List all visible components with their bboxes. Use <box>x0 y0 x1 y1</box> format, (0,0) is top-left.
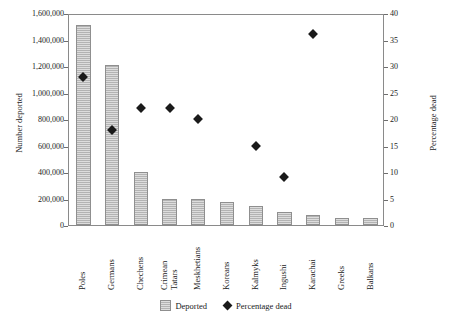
y-axis-right-tick-mark <box>384 173 388 174</box>
legend-label-deported: Deported <box>175 301 207 311</box>
points-layer <box>69 15 383 225</box>
legend-label-percentage-dead: Percentage dead <box>236 301 291 311</box>
y-axis-left-tick-label: 1,600,000 <box>2 10 64 18</box>
x-axis-tick-label: Chechens <box>136 257 146 290</box>
data-point-marker <box>78 72 88 82</box>
y-axis-left-tick-label: 800,000 <box>2 116 64 124</box>
legend-item-percentage-dead: Percentage dead <box>223 301 291 311</box>
y-axis-right-tick-mark <box>384 120 388 121</box>
diamond-marker-icon <box>223 301 233 311</box>
y-axis-right-tick-mark <box>384 41 388 42</box>
legend-item-deported: Deported <box>160 300 207 311</box>
x-axis-tick-label: Karachai <box>308 259 318 290</box>
y-axis-right-tick-label: 30 <box>390 63 430 71</box>
y-axis-right-tick-label: 0 <box>390 222 430 230</box>
y-axis-left-tick-label: 600,000 <box>2 143 64 151</box>
x-axis-tick-label: Koreans <box>222 262 232 290</box>
y-axis-left-tick-label: 1,400,000 <box>2 37 64 45</box>
y-axis-left-tick-label: 1,200,000 <box>2 63 64 71</box>
y-axis-right-tick-label: 40 <box>390 10 430 18</box>
data-point-marker <box>251 141 261 151</box>
chart-legend: Deported Percentage dead <box>0 300 452 311</box>
y-axis-right-tick-mark <box>384 147 388 148</box>
y-axis-left-tick-label: 400,000 <box>2 169 64 177</box>
plot-area <box>68 14 384 226</box>
y-axis-right-tick-label: 35 <box>390 37 430 45</box>
y-axis-right-tick-label: 15 <box>390 143 430 151</box>
x-axis-tick-label: Poles <box>78 272 88 290</box>
y-axis-right-tick-mark <box>384 67 388 68</box>
x-axis-tick-label: CrimeanTatars <box>160 261 179 290</box>
y-axis-right-tick-mark <box>384 94 388 95</box>
chart-container: Number deported Percentage dead 0200,000… <box>0 0 452 326</box>
x-axis-tick-label: Balkans <box>366 263 376 290</box>
x-axis-tick-label: Germans <box>107 259 117 290</box>
data-point-marker <box>308 29 318 39</box>
y-axis-left-tick-label: 0 <box>2 222 64 230</box>
y-axis-left-tick-mark <box>64 226 68 227</box>
data-point-marker <box>165 103 175 113</box>
y-axis-right-tick-mark <box>384 200 388 201</box>
y-axis-right-tick-label: 5 <box>390 196 430 204</box>
x-axis-tick-label: Ingushi <box>279 265 289 291</box>
x-axis-tick-label: Kalmyks <box>251 259 261 290</box>
y-axis-left-tick-label: 1,000,000 <box>2 90 64 98</box>
bar-swatch-icon <box>160 300 171 311</box>
y-axis-left-tick-label: 200,000 <box>2 196 64 204</box>
data-point-marker <box>136 103 146 113</box>
data-point-marker <box>193 114 203 124</box>
y-axis-right-tick-label: 20 <box>390 116 430 124</box>
y-axis-right-tick-mark <box>384 226 388 227</box>
data-point-marker <box>107 125 117 135</box>
x-axis-tick-label: Meskhetians <box>193 247 203 290</box>
data-point-marker <box>280 172 290 182</box>
y-axis-right-tick-mark <box>384 14 388 15</box>
x-axis-tick-label: Greeks <box>337 266 347 290</box>
y-axis-right-tick-label: 25 <box>390 90 430 98</box>
y-axis-right-tick-label: 10 <box>390 169 430 177</box>
